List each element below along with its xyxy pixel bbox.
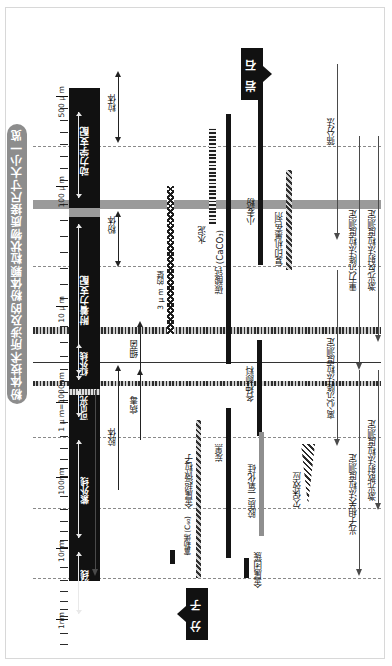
axis-tick-10um: 10 μ m [57,296,66,323]
state-label-granule: 粒体 [109,94,118,112]
state-range-colloid [118,370,119,490]
page-title: 粉体技术所涉及的粉体颗粒状物质接尺寸大小一览 [7,124,27,404]
ruler-arrow-uv [78,440,79,538]
material-label-toner: 复印机墨色剂 [276,212,285,266]
material-label-metal-ultrafine: 金属超微粒子 [186,454,195,508]
material-label-fullerene: 富勒烯 (C₆₀) [184,516,191,556]
method-line-centrifugal-sed [337,270,338,440]
material-range-virus [140,374,141,440]
material-label-carbon-black: 炭黑 [216,444,225,462]
material-bar-metal-ultrafine [196,420,201,578]
method-label-photon-correlation: 光子相关法粒度测定 [350,454,359,535]
material-bar-cement [209,128,216,224]
callout-molecule-label: 分 子 [189,597,205,632]
state-label-powder: 粉体 [109,216,118,234]
ruler-arrow-visible [78,391,79,417]
effect-label-tyndall: 欠保效应 [294,472,303,508]
state-range-powder [118,216,119,262]
callout-rock: 岩 石 [241,48,263,100]
material-bar-3um-wall [167,186,174,334]
material-label-colloidal-silica: 胶质二氧化硅 [249,464,258,518]
material-bar-metal-cluster [244,558,249,578]
method-line-photon-correlation [359,370,360,570]
effect-wedge-tyndall [301,444,315,506]
material-bar-fullerene [170,550,175,564]
material-label-virus: 病毒 [131,396,140,414]
callout-molecule: 分 子 [186,588,208,640]
axis-tick-1nm: 1nm [57,612,66,629]
material-bar-colloidal-silica [259,432,264,536]
method-line-laser-scatter [378,370,379,504]
chart-canvas: 500 μ m 100 μ m 10 μ m 1 μ m=1000nm 100n… [33,40,381,626]
axis-tick-1um: 1 μ m=1000nm [57,372,66,432]
callout-rock-tip [263,66,272,82]
material-bar-caco3 [226,114,231,364]
method-line-em [95,390,96,570]
axis-tick-500um: 500 μ m [57,86,66,118]
method-label-laser-scatter: 激光散射法粒度测定 [369,420,378,501]
state-label-colloid: 胶体 [109,428,118,446]
method-label-sieving: 筛分法 [328,118,337,145]
material-label-pigments: 各种颜料 [247,366,256,402]
ruler-arrow-dynamic [78,112,79,198]
material-bar-toner [286,170,292,270]
material-bar-carbon-black [226,408,231,558]
method-line-sieving [337,64,338,234]
material-label-bacteria: 细菌 [131,340,140,358]
callout-molecule-tip [177,606,186,622]
ruler-arrow-infrared [78,344,79,380]
material-bar-flour [258,100,263,265]
material-label-caco3: 碳酸钙 (CaCO₃) [216,230,225,294]
callout-rock-label: 岩 石 [244,57,260,92]
axis-tick-100nm: 100nm [57,468,66,495]
method-label-laser-reflect: 激光反射法粒度测定 [369,210,378,291]
method-line-gravity-sed [359,136,360,364]
material-bar-pigments [257,340,262,436]
spectrum-label-infrared: 红外线 [69,340,100,388]
material-range-bacteria [140,326,141,372]
zone-label-dynamic: 动力学支配 [69,96,100,206]
page-title-text: 粉体技术所涉及的粉体颗粒状物质接尺寸大小一览 [9,129,25,400]
material-label-metal-cluster: 金属团簇 [255,552,264,588]
method-line-laser-reflect [378,136,379,336]
method-label-em: 电子显微镜观察 [86,418,95,481]
axis-tick-100um: 100 μ m [57,176,66,208]
axis-tick-10nm: 10nm [57,540,66,562]
material-label-cement: 水泥 [199,226,208,244]
ruler-arrow-xray [78,552,79,614]
page-root: 粉体技术所涉及的粉体颗粒状物质接尺寸大小一览 [0,0,392,666]
method-label-gravity-sed: 重力沉降法粒度测定 [350,210,359,291]
material-label-3um-wall: 3 μ m 的壁 [157,272,164,310]
ruler-band-grey [69,208,100,217]
material-label-flour: 小麦粉 [248,198,257,225]
state-range-granule [118,76,119,138]
method-label-centrifugal-sed: 离心沉降法粒度测定 [328,338,337,419]
